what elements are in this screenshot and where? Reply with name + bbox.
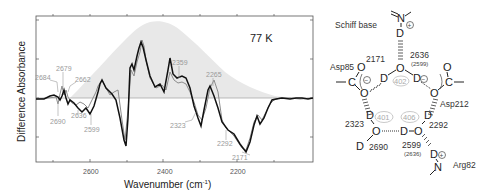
atom-d-schiff: D <box>396 27 404 39</box>
atom-o-w406: O <box>414 125 423 137</box>
freq-2599-paren: (2636) <box>404 151 421 157</box>
atom-o-w401: O <box>372 125 381 137</box>
background-envelope <box>70 21 313 98</box>
peak-label-2599: 2599 <box>84 126 100 133</box>
temperature-label: 77 K <box>250 32 273 44</box>
peak-label-2323: 2323 <box>170 122 186 129</box>
hydrogen-bond-diagram: Schiff base N + D O 2171 2636 (2599) D D… <box>330 11 476 175</box>
peak-label-2636: 2636 <box>71 112 87 119</box>
atom-d-w402-left: D <box>380 72 388 84</box>
minus-charge-asp212: − <box>422 76 426 83</box>
figure: 2684 2679 2662 2690 2636 2599 2359 2265 … <box>0 0 492 191</box>
hbond-w402-asp85 <box>370 83 381 92</box>
atom-c-asp212: C <box>445 76 453 88</box>
atom-o-asp85-bottom: O <box>360 87 369 99</box>
arg82-label: Arg82 <box>453 160 476 170</box>
atom-d-arg82: D <box>430 148 438 160</box>
atom-c-asp85: C <box>348 76 356 88</box>
atom-n-schiff: N <box>397 12 405 24</box>
atom-o-w402: O <box>396 62 405 74</box>
atom-d-w401-top: D <box>366 109 374 121</box>
hbond-schiff-w402 <box>398 41 403 59</box>
atom-d-w406-left: D <box>400 125 408 137</box>
peak-label-2265: 2265 <box>206 71 222 78</box>
x-axis-label: Wavenumber (cm-1) <box>124 179 211 190</box>
peak-label-2662: 2662 <box>75 76 91 83</box>
water-id-406: 406 <box>403 113 416 122</box>
peak-label-2684: 2684 <box>35 74 51 81</box>
x-tick-2200: 2200 <box>230 168 246 175</box>
atom-d-w402-right: D <box>413 72 421 84</box>
atom-o-asp85-top: O <box>357 61 366 73</box>
schiff-base-label: Schiff base <box>335 20 377 30</box>
atom-d-w401-bottom: D <box>356 140 364 152</box>
water-id-401: 401 <box>377 113 390 122</box>
peak-label-2690: 2690 <box>50 118 66 125</box>
freq-2323: 2323 <box>345 119 364 129</box>
peak-label-2679: 2679 <box>56 65 72 72</box>
y-axis-label: Difference Absorbance <box>16 41 27 142</box>
atom-n-arg82: N <box>434 161 442 173</box>
x-tick-2400: 2400 <box>157 168 173 175</box>
asp212-label: Asp212 <box>440 99 469 109</box>
freq-2292: 2292 <box>429 120 448 130</box>
freq-2690: 2690 <box>369 142 388 152</box>
minus-charge-asp85: − <box>365 77 369 84</box>
water-id-402: 402 <box>394 77 407 86</box>
freq-2599: 2599 <box>402 140 421 150</box>
freq-2636-paren: (2599) <box>411 61 428 67</box>
freq-2171: 2171 <box>366 54 385 64</box>
freq-2636: 2636 <box>410 50 429 60</box>
spectrum-chart: 2684 2679 2662 2690 2636 2599 2359 2265 … <box>16 14 313 190</box>
peak-label-2359: 2359 <box>172 59 188 66</box>
asp85-label: Asp85 <box>330 62 354 72</box>
plus-charge-arg82: + <box>440 152 444 159</box>
hbond-w402-asp212 <box>421 82 431 89</box>
x-tick-2600: 2600 <box>83 168 99 175</box>
peak-label-2292: 2292 <box>217 140 233 147</box>
plus-charge-schiff: + <box>408 22 412 29</box>
atom-o-asp212-bottom: O <box>430 87 439 99</box>
peak-label-2171: 2171 <box>232 154 248 161</box>
atom-o-asp212-top: O <box>443 61 452 73</box>
hbond-w406-arg82 <box>422 134 431 146</box>
